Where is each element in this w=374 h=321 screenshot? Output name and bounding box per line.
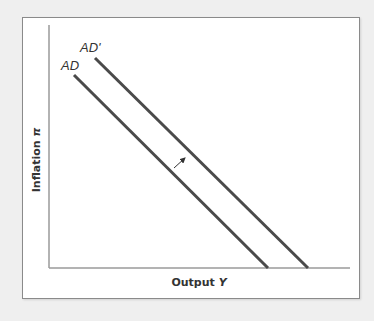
ad-label: AD: [61, 58, 79, 73]
ad-curve: [74, 75, 268, 268]
ad-prime-label: AD': [80, 40, 101, 55]
y-axis-label: Inflation π: [30, 128, 43, 192]
shift-arrow-icon: [174, 158, 185, 168]
ad-prime-curve: [95, 58, 308, 268]
plot-area: [0, 0, 374, 321]
x-axis-label: Output Y: [171, 276, 226, 289]
